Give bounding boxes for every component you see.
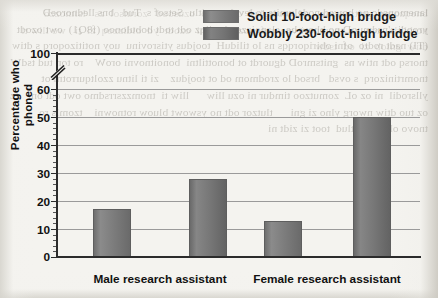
legend-swatch-icon-series-2 bbox=[203, 27, 239, 40]
bar-male-solid-bridge[interactable] bbox=[93, 209, 131, 257]
chart-legend: Solid 10-foot-high bridge Wobbly 230-foo… bbox=[203, 9, 417, 43]
bar-female-solid-bridge[interactable] bbox=[264, 221, 302, 257]
x-tick-label-female-research-assistant: Female research assistant bbox=[253, 272, 401, 286]
y-tick-label-60: 60 bbox=[20, 83, 50, 97]
plot-area bbox=[57, 53, 420, 257]
bars-group bbox=[57, 53, 420, 257]
legend-item-solid-bridge: Solid 10-foot-high bridge bbox=[203, 9, 417, 24]
y-axis-tick-labels: 100 60 50 40 30 20 10 0 bbox=[16, 53, 50, 257]
x-tick-label-male-research-assistant: Male research assistant bbox=[93, 272, 226, 286]
y-tick-label-10: 10 bbox=[20, 223, 50, 237]
y-tick-label-0: 0 bbox=[20, 250, 50, 264]
y-tick-label-40: 40 bbox=[20, 139, 50, 153]
y-tick-label-30: 30 bbox=[20, 167, 50, 181]
bar-chart: Solid 10-foot-high bridge Wobbly 230-foo… bbox=[0, 0, 438, 298]
bar-female-wobbly-bridge[interactable] bbox=[353, 117, 391, 257]
legend-swatch-icon-series-1 bbox=[203, 10, 239, 23]
legend-item-wobbly-bridge: Wobbly 230-foot-high bridge bbox=[203, 26, 417, 41]
legend-label-series-1: Solid 10-foot-high bridge bbox=[247, 10, 396, 24]
bar-male-wobbly-bridge[interactable] bbox=[189, 179, 227, 257]
x-axis-tick-labels: Male research assistant Female research … bbox=[57, 272, 420, 288]
y-axis-line bbox=[56, 52, 58, 258]
y-tick-label-50: 50 bbox=[20, 111, 50, 125]
y-tick-label-100: 100 bbox=[20, 47, 50, 61]
scanned-page: lanemonedo no bowed nodelumite to level … bbox=[0, 0, 438, 298]
y-axis-break-icon bbox=[50, 62, 66, 80]
legend-label-series-2: Wobbly 230-foot-high bridge bbox=[247, 27, 417, 41]
x-axis-line bbox=[56, 256, 421, 258]
y-tick-label-20: 20 bbox=[20, 195, 50, 209]
